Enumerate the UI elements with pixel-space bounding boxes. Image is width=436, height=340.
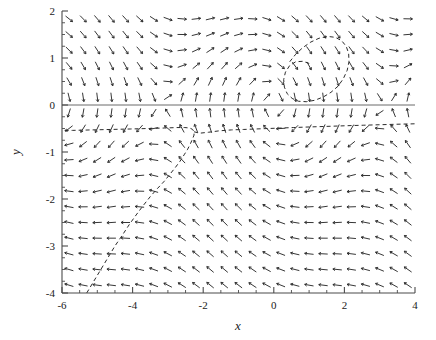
field-arrow bbox=[235, 251, 242, 257]
field-arrow bbox=[208, 172, 213, 179]
field-arrow bbox=[207, 204, 213, 211]
field-arrow bbox=[320, 15, 326, 22]
field-arrow bbox=[278, 78, 284, 84]
field-arrow bbox=[391, 93, 396, 101]
axis-frame-layer bbox=[62, 11, 415, 293]
field-arrow bbox=[164, 95, 172, 100]
vector-field-layer bbox=[65, 15, 413, 288]
field-arrow bbox=[263, 141, 270, 147]
field-arrow bbox=[178, 267, 186, 272]
field-arrow bbox=[390, 189, 398, 194]
field-arrow bbox=[292, 125, 298, 131]
field-arrow bbox=[292, 47, 298, 54]
field-arrow bbox=[150, 47, 157, 52]
field-arrow bbox=[80, 16, 86, 22]
field-arrow bbox=[80, 141, 87, 146]
field-arrow bbox=[362, 125, 369, 131]
field-arrow bbox=[235, 282, 242, 287]
x-axis-title: x bbox=[234, 318, 241, 333]
field-arrow bbox=[123, 46, 128, 53]
field-arrow bbox=[207, 282, 214, 288]
y-axis-title: y bbox=[8, 149, 23, 157]
field-arrow bbox=[363, 62, 369, 69]
field-arrow bbox=[178, 283, 186, 288]
field-arrow bbox=[194, 156, 199, 163]
field-arrow bbox=[136, 16, 143, 22]
field-arrow bbox=[376, 63, 383, 68]
field-arrow bbox=[235, 63, 242, 69]
field-arrow bbox=[137, 62, 142, 69]
field-arrow bbox=[292, 16, 299, 22]
field-arrow bbox=[222, 156, 227, 164]
field-arrow bbox=[263, 157, 270, 162]
field-arrow bbox=[178, 204, 185, 210]
x-tick-label: -2 bbox=[199, 299, 208, 311]
field-arrow bbox=[178, 220, 185, 225]
field-arrow bbox=[193, 188, 199, 195]
field-arrow bbox=[108, 141, 114, 148]
field-arrow bbox=[404, 220, 411, 226]
field-arrow bbox=[349, 47, 354, 54]
field-arrow bbox=[164, 142, 171, 147]
direction-field-plot: -6-4-2024-4-3-2-1012 x y bbox=[0, 0, 436, 340]
field-arrow bbox=[109, 46, 114, 54]
field-arrow bbox=[235, 188, 241, 195]
field-arrow bbox=[221, 267, 228, 273]
field-arrow bbox=[307, 46, 312, 53]
field-arrow bbox=[94, 141, 100, 148]
field-arrow bbox=[334, 15, 340, 22]
field-arrow bbox=[405, 204, 412, 210]
field-arrow bbox=[207, 235, 214, 241]
field-arrow bbox=[66, 32, 73, 38]
field-arrow bbox=[320, 141, 326, 148]
field-arrow bbox=[249, 267, 256, 272]
field-arrow bbox=[319, 157, 327, 162]
field-arrow bbox=[277, 16, 285, 21]
field-arrow bbox=[390, 204, 398, 209]
field-arrow bbox=[236, 172, 242, 179]
field-arrow bbox=[249, 220, 256, 225]
field-arrow bbox=[405, 78, 411, 85]
y-tick-label: 1 bbox=[50, 52, 56, 64]
field-arrow bbox=[376, 48, 384, 53]
field-arrow bbox=[94, 15, 100, 22]
axis-tick-labels-layer: -6-4-2024-4-3-2-1012 bbox=[46, 5, 418, 311]
field-arrow bbox=[405, 156, 411, 163]
field-arrow bbox=[151, 78, 157, 85]
x-tick-label: 0 bbox=[271, 299, 277, 311]
field-arrow bbox=[193, 251, 200, 257]
field-arrow bbox=[376, 79, 383, 85]
y-tick-label: 0 bbox=[50, 99, 56, 111]
field-arrow bbox=[179, 141, 185, 148]
field-arrow bbox=[221, 282, 228, 288]
trajectory-layer bbox=[62, 36, 415, 293]
x-tick-label: -6 bbox=[57, 299, 67, 311]
field-arrow bbox=[109, 15, 115, 22]
field-arrow bbox=[221, 204, 227, 211]
field-arrow bbox=[404, 251, 411, 256]
field-arrow bbox=[263, 173, 271, 178]
field-arrow bbox=[250, 156, 256, 163]
y-tick-label: -3 bbox=[46, 240, 56, 252]
field-arrow bbox=[81, 47, 86, 54]
field-arrow bbox=[221, 62, 227, 69]
field-arrow bbox=[178, 251, 185, 256]
field-arrow bbox=[321, 46, 326, 54]
field-arrow bbox=[335, 31, 340, 38]
field-arrow bbox=[193, 235, 200, 241]
field-arrow bbox=[166, 109, 171, 117]
field-arrow bbox=[391, 125, 397, 132]
field-arrow bbox=[137, 47, 143, 54]
field-arrow bbox=[235, 235, 242, 241]
field-arrow bbox=[66, 47, 72, 53]
field-arrow bbox=[136, 31, 142, 37]
field-arrow bbox=[250, 141, 255, 148]
field-arrow bbox=[207, 188, 213, 195]
y-tick-label: -1 bbox=[46, 146, 55, 158]
field-arrow bbox=[93, 157, 101, 162]
field-arrow bbox=[249, 251, 256, 256]
field-arrow bbox=[405, 172, 411, 178]
field-arrow bbox=[66, 62, 72, 69]
field-arrow bbox=[277, 32, 285, 37]
field-arrow bbox=[404, 235, 411, 240]
